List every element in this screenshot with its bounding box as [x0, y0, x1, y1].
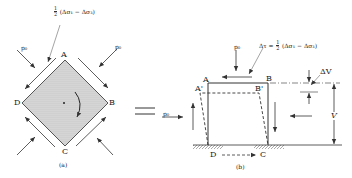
annotation-a: 12 (Δσ₁ − Δσ₃) [54, 6, 95, 17]
pressure-arrow-top-right [99, 49, 117, 67]
annotation-b: Δτ = 12 (Δσ₁ − Δσ₃) [259, 40, 317, 51]
v-label: V [331, 112, 337, 120]
pressure-label-left-b: p₀ [163, 110, 169, 118]
caption-b: (b) [236, 163, 245, 171]
annotation-leader [48, 25, 60, 62]
corner-label-a: A [61, 51, 67, 59]
pressure-arrow-bottom-right [97, 138, 113, 155]
diagram-canvas [0, 0, 352, 178]
corner-label-c: C [62, 148, 68, 156]
pressure-arrow-top-left [17, 50, 35, 68]
corner-label-b-solid: B [266, 75, 272, 83]
corner-label-c-b: C [260, 151, 266, 159]
center-point [63, 102, 65, 104]
panel-b [162, 48, 342, 155]
pressure-label-right: p₀ [115, 43, 121, 51]
pressure-label-top: p₀ [234, 43, 240, 51]
equals-sign [135, 108, 155, 114]
corner-label-d: D [14, 99, 20, 107]
corner-label-d-b: D [210, 151, 216, 159]
ground-hatch-right [254, 145, 284, 149]
caption-a: (a) [59, 161, 67, 169]
panel-a [17, 25, 117, 155]
ground-hatch-left [193, 145, 223, 149]
annotation-leader-b [249, 48, 263, 74]
pressure-arrow-bottom-left [17, 137, 35, 155]
corner-label-b: B [109, 99, 115, 107]
corner-label-b-prime: B' [255, 85, 263, 93]
corner-label-a-solid: A [203, 76, 209, 84]
deformed-element [200, 93, 268, 145]
corner-label-a-prime: A' [195, 85, 203, 93]
pressure-label-left: p₀ [21, 44, 27, 52]
delta-v-label: ΔV [320, 68, 332, 76]
dv-leader [311, 75, 320, 85]
